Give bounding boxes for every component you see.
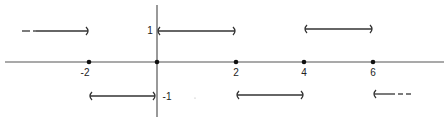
point-x-4 xyxy=(302,60,307,65)
point-x-minus2 xyxy=(87,60,92,65)
point-x-6 xyxy=(371,60,376,65)
x-tick-label-6: 6 xyxy=(370,67,376,78)
y-label-minus1: -1 xyxy=(163,91,172,102)
scan-speck xyxy=(194,97,195,98)
x-tick-label-2: 2 xyxy=(233,67,239,78)
square-wave-chart: -2 2 4 6 1 -1 xyxy=(0,0,444,123)
segment-upper-4-6 xyxy=(305,25,372,33)
point-x-2 xyxy=(234,60,239,65)
segment-lower-minus2-0 xyxy=(90,92,155,100)
segment-upper-0-2 xyxy=(158,27,235,35)
segment-lower-right-infinite xyxy=(374,90,411,98)
x-tick-label-minus2: -2 xyxy=(81,67,90,78)
y-label-1: 1 xyxy=(147,25,153,36)
point-origin xyxy=(155,60,160,65)
x-tick-label-4: 4 xyxy=(301,67,307,78)
segment-upper-left-infinite xyxy=(22,27,88,35)
segment-lower-2-4 xyxy=(237,91,303,99)
